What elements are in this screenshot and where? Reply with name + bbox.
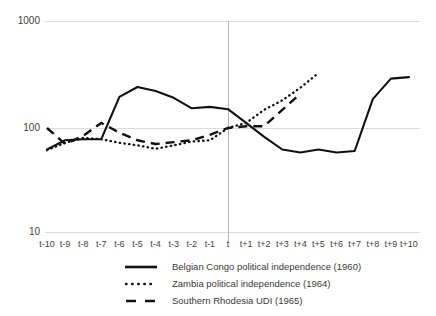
- legend-item-southern-rhodesia: Southern Rhodesia UDI (1965): [123, 292, 423, 309]
- x-axis: t-10t-9t-8t-7t-6t-5t-4t-3t-2t-1tt+1t+2t+…: [0, 239, 436, 253]
- legend-item-belgian-congo: Belgian Congo political independence (19…: [123, 258, 423, 275]
- legend-label-belgian-congo: Belgian Congo political independence (19…: [172, 261, 361, 273]
- series-line-belgian-congo: [47, 77, 409, 152]
- dotted-line-key: [123, 278, 167, 290]
- solid-line-key: [123, 261, 167, 273]
- x-tick-label-tplus10: t+10: [397, 239, 421, 250]
- legend: Belgian Congo political independence (19…: [123, 258, 423, 309]
- series-line-zambia: [47, 73, 319, 150]
- legend-label-zambia: Zambia political independence (1964): [172, 278, 330, 290]
- legend-label-southern-rhodesia: Southern Rhodesia UDI (1965): [172, 295, 302, 307]
- legend-item-zambia: Zambia political independence (1964): [123, 275, 423, 292]
- dashed-line-key: [123, 295, 167, 307]
- chart-container: 1000 100 10 t-10t-9t-8t-7t-6t-5t-4t-3t-2…: [0, 0, 436, 316]
